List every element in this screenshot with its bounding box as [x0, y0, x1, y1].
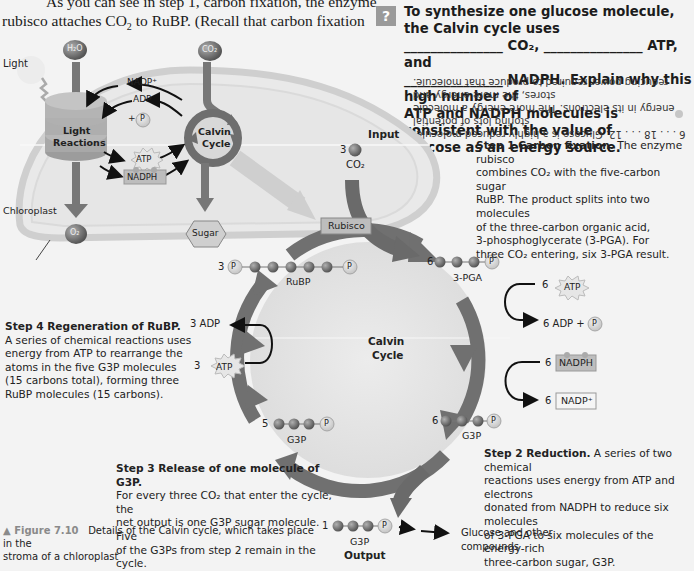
calvin-small-label-1: Calvin — [198, 126, 231, 137]
light-reactions-label-1: Light — [63, 125, 90, 136]
atp-in-label: ATP — [564, 282, 580, 292]
adp-label: ADP — [133, 94, 152, 104]
co2-top-label: CO₂ — [202, 45, 217, 54]
calvin-center-label-2: Cycle — [372, 349, 404, 361]
input-label: Input — [368, 128, 399, 140]
nadph-label: NADPH — [559, 357, 593, 368]
phosphate-label: P — [140, 114, 145, 123]
g3p6-label: G3P — [462, 430, 481, 441]
chloroplast-label: Chloroplast — [3, 205, 57, 216]
nadp-count: 6 — [545, 395, 551, 406]
atp-overview-label: ATP — [136, 154, 151, 164]
atp-in-count: 6 — [542, 279, 548, 290]
pga-label: 3-PGA — [453, 272, 482, 283]
step-2-description: Step 2 Reduction. A series of two chemic… — [484, 447, 691, 569]
nadph-overview-label: NADPH — [127, 172, 157, 182]
step-4-description: Step 4 Regeneration of RuBP. A series of… — [5, 320, 195, 402]
calvin-center-label-1: Calvin — [368, 335, 404, 347]
g3p5-count: 5 — [262, 418, 268, 429]
input-co2-label: CO₂ — [346, 159, 365, 170]
light-label: Light — [3, 58, 28, 69]
sugar-label: Sugar — [192, 228, 218, 238]
rubp-label: RuBP — [286, 276, 310, 287]
pga-count: 6 — [427, 256, 433, 267]
rubp-p-right: P — [347, 262, 352, 271]
rubp-count: 3 — [218, 261, 224, 272]
light-reactions-label-2: Reactions — [53, 137, 106, 148]
g3p6-count: 6 — [432, 415, 438, 426]
step-1-description: Step 1 Carbon fixation. The enzyme rubis… — [476, 139, 691, 261]
nadph-count: 6 — [545, 357, 551, 368]
h2o-label: H₂O — [67, 44, 83, 53]
regen-atp-label: ATP — [216, 362, 232, 372]
g3p5-label: G3P — [287, 434, 306, 445]
plus-label: + — [128, 113, 136, 123]
output-p: P — [382, 521, 387, 530]
nadp-label: NADP⁺ — [561, 395, 593, 406]
input-count: 3 — [340, 144, 346, 155]
adp-out-label: 6 ADP + — [543, 318, 585, 329]
output-label: Output — [344, 549, 385, 561]
adp-out-p: P — [592, 319, 597, 328]
output-g3p-label: G3P — [350, 536, 369, 547]
figure-number: ▲ Figure 7.10 — [3, 525, 79, 536]
g3p5-p: P — [324, 419, 329, 428]
rubisco-label: Rubisco — [328, 220, 365, 231]
g3p6-p: P — [491, 416, 496, 425]
nadp-plus-label: NADP⁺ — [127, 77, 157, 87]
figure-caption: ▲ Figure 7.10 Details of the Calvin cycl… — [3, 524, 323, 563]
o2-label: O₂ — [70, 228, 80, 237]
rubp-p-left: P — [231, 262, 236, 271]
calvin-small-label-2: Cycle — [202, 138, 231, 149]
